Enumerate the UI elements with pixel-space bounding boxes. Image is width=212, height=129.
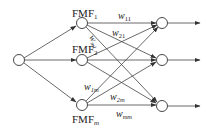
weight-label-w11: w11	[118, 10, 131, 22]
fmf-label-1: FMF1	[72, 7, 98, 21]
output-node-2	[157, 55, 168, 66]
fuzzy-network-diagram: FMF1 FMF2 FMFm w11 w21 wm1 w1m w2m wmm	[0, 0, 212, 129]
weight-label-wmm: wmm	[116, 108, 132, 120]
input-node	[14, 55, 25, 66]
weight-label-w2m: w2m	[110, 91, 125, 103]
output-arrows	[168, 23, 200, 106]
fmf-node-m	[77, 100, 88, 111]
input-edges	[24, 26, 76, 102]
weight-label-w1m: w1m	[84, 81, 99, 93]
weight-label-w21: w21	[112, 27, 125, 39]
output-node-3	[157, 101, 168, 112]
edge-input-fmf1	[24, 26, 76, 58]
fmf-node-1	[77, 18, 88, 29]
fmf-label-m: FMFm	[72, 113, 99, 127]
output-node-1	[157, 18, 168, 29]
fmf-node-2	[77, 55, 88, 66]
edge-input-fmfm	[24, 63, 76, 102]
